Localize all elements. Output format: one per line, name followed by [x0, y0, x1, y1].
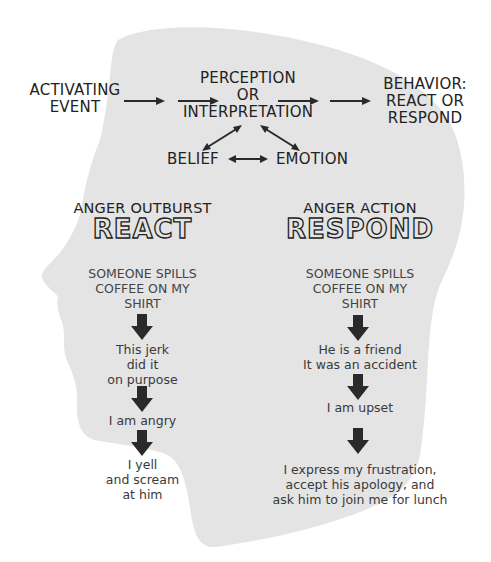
emotion-label: EMOTION: [272, 151, 352, 168]
respond-step-behavior: I express my frustration, accept his apo…: [255, 462, 465, 507]
down-arrow-icon: [131, 430, 153, 456]
down-arrow-icon: [347, 315, 369, 341]
step-line: I yell: [60, 457, 225, 472]
activating-event-label: ACTIVATING EVENT: [25, 82, 125, 116]
down-arrow-icon: [131, 386, 153, 412]
down-arrow-icon: [347, 428, 369, 454]
down-arrow-icon: [131, 314, 153, 340]
step-line: SOMEONE SPILLS: [60, 266, 225, 281]
step-line: on purpose: [60, 372, 225, 387]
step-line: did it: [60, 357, 225, 372]
step-line: I am upset: [275, 400, 445, 415]
behavior-line-1: BEHAVIOR:: [375, 76, 475, 93]
step-line: SHIRT: [60, 296, 225, 311]
react-title: REACT: [60, 214, 225, 244]
step-line: and scream: [60, 472, 225, 487]
perception-line-1: PERCEPTION: [178, 70, 318, 87]
step-line: This jerk: [60, 342, 225, 357]
respond-title: RESPOND: [275, 214, 445, 244]
perception-line-3: INTERPRETATION: [178, 104, 318, 121]
respond-step-emotion: I am upset: [275, 400, 445, 415]
respond-column: ANGER ACTION RESPOND: [275, 200, 445, 244]
down-arrow-icon: [347, 374, 369, 400]
behavior-label: BEHAVIOR: REACT OR RESPOND: [375, 76, 475, 127]
double-arrow-icon: [200, 124, 244, 152]
step-line: at him: [60, 487, 225, 502]
react-step-emotion: I am angry: [60, 413, 225, 428]
step-line: ask him to join me for lunch: [255, 492, 465, 507]
step-line: I express my frustration,: [255, 462, 465, 477]
activating-event-line-2: EVENT: [25, 99, 125, 116]
step-line: SOMEONE SPILLS: [275, 266, 445, 281]
respond-step-thought: He is a friend It was an accident: [265, 342, 455, 372]
react-step-thought: This jerk did it on purpose: [60, 342, 225, 387]
double-arrow-icon: [228, 154, 268, 164]
behavior-line-2: REACT OR: [375, 93, 475, 110]
step-line: It was an accident: [265, 357, 455, 372]
activating-event-line-1: ACTIVATING: [25, 82, 125, 99]
react-column: ANGER OUTBURST REACT: [60, 200, 225, 244]
right-arrow-icon: [124, 96, 166, 106]
behavior-line-3: RESPOND: [375, 110, 475, 127]
belief-label: BELIEF: [158, 151, 228, 168]
step-line: COFFEE ON MY: [60, 281, 225, 296]
double-arrow-icon: [258, 124, 302, 152]
right-arrow-icon: [278, 96, 320, 106]
react-step-trigger: SOMEONE SPILLS COFFEE ON MY SHIRT: [60, 266, 225, 311]
right-arrow-icon: [330, 96, 372, 106]
step-line: SHIRT: [275, 296, 445, 311]
step-line: COFFEE ON MY: [275, 281, 445, 296]
step-line: accept his apology, and: [255, 477, 465, 492]
react-step-behavior: I yell and scream at him: [60, 457, 225, 502]
step-line: I am angry: [60, 413, 225, 428]
step-line: He is a friend: [265, 342, 455, 357]
respond-step-trigger: SOMEONE SPILLS COFFEE ON MY SHIRT: [275, 266, 445, 311]
